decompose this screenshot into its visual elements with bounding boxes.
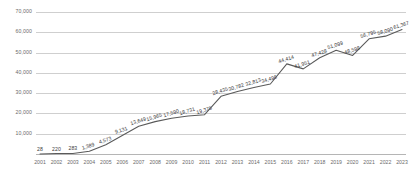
x-tick-label: 2003 [67, 160, 79, 165]
x-tick-label: 2014 [248, 160, 260, 165]
x-tick-label: 2004 [84, 160, 96, 165]
x-tick-label: 2015 [265, 160, 277, 165]
x-tick-label: 2017 [297, 160, 309, 165]
x-tick-label: 2016 [281, 160, 293, 165]
y-tick-label: 30,000 [0, 91, 32, 96]
plot-area: 282202831,3894,5739,13113,64915,96517,59… [36, 12, 406, 154]
x-tick-label: 2005 [100, 160, 112, 165]
x-tick-label: 2021 [363, 160, 375, 165]
line-chart: 10,00020,00030,00040,00050,00060,00070,0… [0, 0, 414, 179]
x-tick-label: 2011 [199, 160, 210, 165]
series-line [36, 12, 406, 154]
data-point-label: 283 [69, 146, 78, 151]
x-tick-label: 2009 [166, 160, 178, 165]
x-tick-label: 2023 [396, 160, 408, 165]
x-tick-label: 2022 [380, 160, 392, 165]
x-tick-label: 2006 [116, 160, 128, 165]
y-tick-label: 20,000 [0, 111, 32, 116]
y-tick-label: 10,000 [0, 131, 32, 136]
y-tick-label: 60,000 [0, 30, 32, 35]
x-tick-label: 2008 [149, 160, 161, 165]
data-point-label: 220 [52, 146, 61, 151]
y-tick-label: 50,000 [0, 50, 32, 55]
x-tick-label: 2007 [133, 160, 145, 165]
x-tick-label: 2018 [314, 160, 326, 165]
x-tick-label: 2019 [330, 160, 342, 165]
y-tick-label: 40,000 [0, 70, 32, 75]
x-tick-label: 2002 [51, 160, 63, 165]
x-tick-label: 2012 [215, 160, 227, 165]
axis-baseline [36, 154, 406, 155]
data-point-label: 28 [37, 147, 43, 152]
y-tick-label: 70,000 [0, 9, 32, 14]
x-tick-label: 2013 [232, 160, 244, 165]
x-tick-label: 2010 [182, 160, 194, 165]
x-tick-label: 2001 [34, 160, 46, 165]
x-tick-label: 2020 [347, 160, 359, 165]
